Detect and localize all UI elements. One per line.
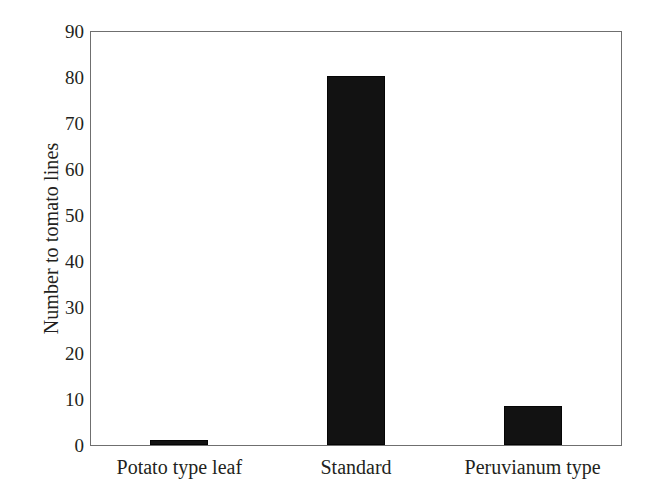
y-axis-tick-label: 90 [46,22,84,41]
y-axis-tick-label: 60 [46,160,84,179]
y-axis-tick-label: 50 [46,206,84,225]
bar [504,406,562,445]
y-axis-tick-label: 0 [46,436,84,455]
y-axis-tick-label: 70 [46,114,84,133]
x-axis-tick-labels: Potato type leafStandardPeruvianum type [90,452,622,484]
x-axis-tick-label: Peruvianum type [465,452,601,482]
y-axis-tick-label: 80 [46,68,84,87]
y-axis-tick-labels: 0102030405060708090 [46,31,84,446]
y-axis-tick-label: 10 [46,390,84,409]
bars-layer [91,32,621,445]
y-axis-tick-label: 30 [46,298,84,317]
y-axis-tick-label: 40 [46,252,84,271]
x-axis-tick-label: Potato type leaf [117,452,243,482]
bar-chart: Number to tomato lines 01020304050607080… [0,0,655,494]
bar [150,440,208,445]
bar [327,76,385,445]
y-axis-tick-label: 20 [46,344,84,363]
x-axis-tick-label: Standard [320,452,391,482]
